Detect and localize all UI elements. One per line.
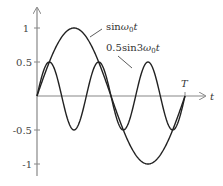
y-tick-label-1: 1 xyxy=(23,23,29,34)
y-tick-label-0.5: 0.5 xyxy=(16,57,32,68)
y-tick-label-neg0.5: -0.5 xyxy=(13,125,32,136)
period-label: T xyxy=(181,78,189,89)
x-axis-label: t xyxy=(210,91,215,102)
label-0.5sin-3w0t: 0.5sin3ω0t xyxy=(106,42,161,55)
waveform-chart: 1 0.5 -0.5 -1 T t sinω0t 0.5sin3ω0t xyxy=(0,0,223,186)
y-tick-label-neg1: -1 xyxy=(22,159,32,170)
label-sin-w0t: sinω0t xyxy=(106,21,138,34)
leader-0.5sin3 xyxy=(118,56,132,68)
leader-sin xyxy=(90,29,102,37)
